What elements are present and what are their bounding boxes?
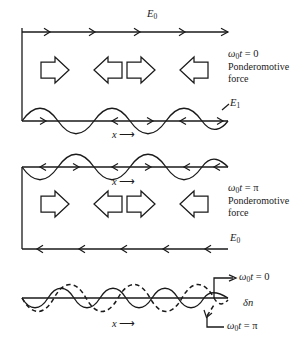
panel-top-block-arrow-1-right bbox=[41, 57, 69, 83]
panel-top-force-label-line2: force bbox=[228, 73, 249, 85]
panel-middle-group bbox=[22, 154, 228, 253]
panel-bottom-axis-label: x ⟶ bbox=[112, 317, 135, 330]
panel-top-group bbox=[22, 28, 229, 134]
panel-top-block-arrow-4-left bbox=[180, 57, 208, 83]
panel-middle-force-label-line2: force bbox=[228, 207, 249, 219]
panel-top-block-arrow-3-right bbox=[127, 57, 155, 83]
panel-bottom-dashed-curve-label: ω0t = π bbox=[227, 320, 258, 333]
panel-bottom-quantity-label: δn bbox=[243, 297, 253, 309]
panel-bottom-solid-curve-label: ω0t = 0 bbox=[239, 271, 270, 284]
panel-middle-block-arrow-2-left bbox=[94, 191, 122, 217]
panel-middle-block-arrow-3-right bbox=[127, 191, 155, 217]
panel-middle-block-arrow-1-right bbox=[41, 191, 69, 217]
panel-top-e1-leader bbox=[222, 104, 229, 110]
panel-top-wave-field-label: E1 bbox=[230, 97, 240, 110]
panel-top-force-label-line1: Ponderomotive bbox=[228, 61, 289, 73]
panel-bottom-solid-leader bbox=[214, 275, 236, 298]
panel-top-block-arrow-2-left bbox=[94, 57, 122, 83]
panel-top-axis-label: x ⟶ bbox=[112, 128, 135, 141]
panel-top-field-label: E0 bbox=[147, 8, 157, 21]
panel-middle-field-label: E0 bbox=[230, 232, 240, 245]
panel-top-phase-label: ω0t = 0 bbox=[228, 48, 259, 61]
panel-bottom-dashed-leader bbox=[204, 305, 224, 327]
physics-diagram: .ln { stroke:#1a1a1a; fill:none; } .w1 {… bbox=[0, 0, 300, 341]
panel-middle-phase-label: ω0t = π bbox=[228, 182, 259, 195]
panel-middle-axis-label: x ⟶ bbox=[112, 175, 135, 188]
panel-middle-block-arrow-4-left bbox=[180, 191, 208, 217]
panel-middle-force-label-line1: Ponderomotive bbox=[228, 195, 289, 207]
